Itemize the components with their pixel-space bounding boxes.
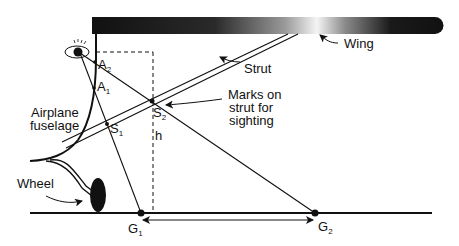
marks-label-line3: sighting [229,113,274,128]
point-label-g1: G1 [128,221,143,238]
wheel-label: Wheel [17,176,54,191]
fuselage-label-line2: fuselage [30,118,79,133]
wheel-shape [90,178,106,212]
wing-shape [92,17,444,34]
eye-icon [65,39,89,58]
point-label-a2: A2 [98,57,112,74]
point-label-g2: G2 [318,219,333,236]
point-label-a1: A1 [97,79,111,96]
h-label: h [155,128,162,143]
sighting-diagram: Wing Strut Marks on strut for sighting A… [0,0,459,246]
point-label-s1: S1 [110,121,124,138]
wing-label: Wing [344,36,374,51]
point-label-s2: S2 [153,105,167,122]
strut-label: Strut [244,61,272,76]
